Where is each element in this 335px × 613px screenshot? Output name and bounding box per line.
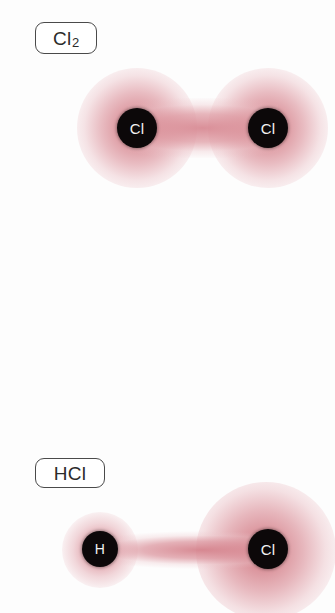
molecule-label-hcl-text: HCl [54,464,87,483]
atom-label: Cl [261,121,276,136]
atom-hcl-hydrogen: H [82,531,118,567]
molecule-label-hcl: HCl [35,458,105,488]
atom-label: H [95,542,105,556]
molecule-label-cl2: Cl2 [35,22,97,54]
molecule-label-cl2-subscript: 2 [72,36,80,49]
atom-label: Cl [261,542,276,557]
atom-cl2-left: Cl [117,108,157,148]
molecule-label-cl2-text: Cl [53,29,72,48]
electron-density-figure: Cl2 Cl Cl HCl H Cl NaCl Na [0,0,335,613]
atom-hcl-chlorine: Cl [248,529,288,569]
panel-cl2: Cl2 Cl Cl [0,0,335,210]
panel-hcl: HCl H Cl [0,210,335,430]
atom-cl2-right: Cl [248,108,288,148]
atom-label: Cl [130,121,145,136]
